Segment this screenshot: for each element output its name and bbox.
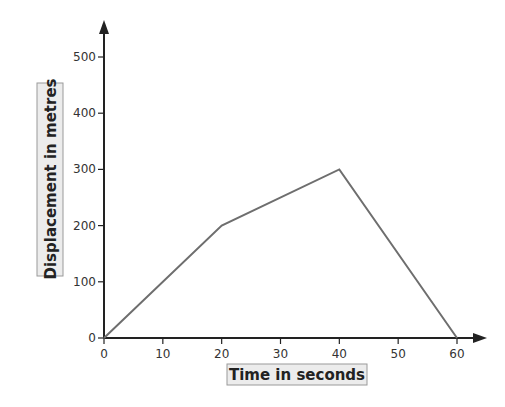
y-axis-title: Displacement in metres — [37, 78, 63, 279]
displacement-line — [104, 169, 457, 338]
x-axis-ticks: 0102030405060 — [100, 338, 464, 361]
x-axis-title-text: Time in seconds — [229, 366, 365, 384]
displacement-time-chart: 0100200300400500 0102030405060 Displacem… — [0, 0, 505, 407]
y-axis-title-text: Displacement in metres — [42, 78, 60, 279]
x-tick-label: 60 — [449, 347, 464, 361]
x-tick-label: 40 — [332, 347, 347, 361]
x-tick-label: 0 — [100, 347, 108, 361]
y-tick-label: 0 — [88, 331, 96, 345]
y-axis-arrow-icon — [99, 20, 109, 34]
x-axis-arrow-icon — [473, 333, 487, 343]
y-tick-label: 500 — [73, 50, 96, 64]
y-tick-label: 200 — [73, 219, 96, 233]
x-tick-label: 30 — [273, 347, 288, 361]
x-tick-label: 50 — [391, 347, 406, 361]
y-tick-label: 400 — [73, 106, 96, 120]
x-tick-label: 20 — [214, 347, 229, 361]
x-tick-label: 10 — [155, 347, 170, 361]
y-tick-label: 100 — [73, 275, 96, 289]
x-axis-title: Time in seconds — [227, 364, 367, 385]
y-tick-label: 300 — [73, 162, 96, 176]
y-axis-ticks: 0100200300400500 — [73, 50, 104, 345]
